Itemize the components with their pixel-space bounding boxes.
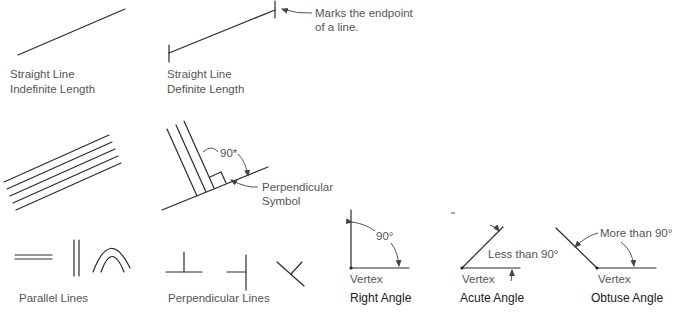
endpoint-callout-line-1: Marks the endpoint: [315, 7, 414, 19]
acute-angle-degree-label: Less than 90°: [488, 248, 558, 260]
symbol-callout-arrow: [231, 180, 258, 187]
indefinite-line-panel: Straight Line Indefinite Length: [10, 9, 125, 95]
acute-angle-title: Acute Angle: [460, 291, 524, 305]
lines-angles-diagram: Straight Line Indefinite Length Marks th…: [0, 0, 676, 315]
acute-arc-top: [490, 225, 499, 231]
obtuse-angle-degree-label: More than 90°: [600, 227, 672, 239]
definite-line-panel: Marks the endpoint of a line. Straight L…: [167, 1, 414, 95]
definite-line-label-2: Definite Length: [167, 83, 244, 95]
parallel-line-set: [4, 135, 121, 210]
acute-arc-bottom: [511, 270, 512, 281]
symbol-callout-line-2: Symbol: [262, 195, 300, 207]
right-angle-arc-top: [352, 222, 375, 231]
vertex-dot: [460, 266, 463, 269]
acute-angle-vertex-label: Vertex: [462, 273, 495, 285]
indefinite-line: [18, 9, 125, 55]
obtuse-angle-panel: More than 90° Vertex Obtuse Angle: [556, 227, 672, 305]
angle-arc-arrow: [238, 154, 248, 176]
endpoint-callout-line-2: of a line.: [315, 21, 358, 33]
right-angle-degree-label: 90°: [376, 230, 393, 242]
obtuse-angle-title: Obtuse Angle: [591, 291, 663, 305]
endpoint-callout-arrow: [282, 9, 312, 13]
acute-angle-panel: Less than 90° Vertex Acute Angle: [451, 213, 558, 305]
symbol-callout-line-1: Perpendicular: [262, 181, 333, 193]
perpendicular-lines-panel: Perpendicular Lines: [166, 252, 304, 304]
perpendicular-square-icon: [210, 172, 226, 183]
perpendicular-lines-label: Perpendicular Lines: [168, 292, 270, 304]
obtuse-arc-top: [575, 233, 598, 247]
right-angle-panel: 90° Vertex Right Angle: [349, 210, 411, 305]
vertex-dot: [349, 266, 352, 269]
indefinite-line-label-1: Straight Line: [10, 68, 75, 80]
angle-arc-start: [203, 148, 218, 152]
definite-line: [169, 10, 275, 53]
right-angle-vertex-label: Vertex: [350, 273, 383, 285]
obtuse-arc-bottom: [621, 242, 634, 266]
parallel-arc-inner: [101, 257, 124, 273]
right-angle-arc-bottom: [391, 243, 399, 266]
parallel-lines-label: Parallel Lines: [19, 292, 88, 304]
vertex-dot: [595, 266, 598, 269]
perpendicular-symbol-panel: 90* Perpendicular Symbol: [162, 121, 333, 210]
obtuse-angle-vertex-label: Vertex: [598, 273, 631, 285]
right-angle-title: Right Angle: [350, 291, 412, 305]
base-line: [162, 167, 268, 210]
parallel-lines-panel: Parallel Lines: [15, 240, 130, 304]
perpendicular-angle-label: 90*: [220, 147, 238, 159]
indefinite-line-label-2: Indefinite Length: [10, 83, 95, 95]
parallel-arc-outer: [93, 248, 130, 272]
definite-line-label-1: Straight Line: [167, 68, 232, 80]
